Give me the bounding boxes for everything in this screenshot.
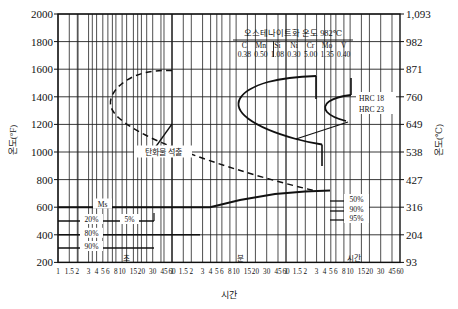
xtick-d2-8: 8 bbox=[228, 268, 232, 276]
left-tick-1600: 1600 bbox=[31, 63, 54, 75]
composition-header-ni: Ni bbox=[290, 41, 298, 50]
x-axis-ticklabels: 11.523456810152030456011.523456810152030… bbox=[56, 268, 404, 276]
xtick-d3-60: 60 bbox=[396, 268, 404, 276]
xtick-d2-6: 6 bbox=[220, 268, 224, 276]
xtick-d1-4: 4 bbox=[95, 268, 99, 276]
composition-value-mo: 1.35 bbox=[320, 50, 333, 59]
composition-header-c: C bbox=[242, 41, 247, 50]
composition-value-cr: 5.00 bbox=[304, 50, 317, 59]
xtick-d3-5: 5 bbox=[329, 268, 333, 276]
xtick-d1-20: 20 bbox=[138, 268, 146, 276]
xtick-d1-3: 3 bbox=[87, 268, 91, 276]
decade-label-minutes: 분 bbox=[237, 254, 244, 263]
composition-value-ni: 0.30 bbox=[287, 50, 300, 59]
composition-header-si: Si bbox=[274, 41, 280, 50]
right-tick-982: 982 bbox=[406, 36, 423, 48]
composition-header-row: CMnSiNiCrMoV bbox=[242, 41, 347, 50]
composition-value-c: 0.38 bbox=[238, 50, 251, 59]
austenitizing-temperature-label: 오스테나이트화 온도 982℃ bbox=[244, 28, 342, 38]
right-tick-1093: 1,093 bbox=[406, 8, 431, 20]
xtick-d2-1.5: 1.5 bbox=[179, 268, 188, 276]
xtick-d1-15: 15 bbox=[130, 268, 138, 276]
right-tick-427: 427 bbox=[406, 174, 423, 186]
hrc-23-label: HRC 23 bbox=[359, 105, 384, 114]
composition-value-mn: 0.50 bbox=[254, 50, 267, 59]
ms-label: Ms bbox=[98, 200, 108, 209]
right-axis-title: 온도(℃) bbox=[434, 124, 444, 156]
composition-header-mn: Mn bbox=[256, 41, 267, 50]
xtick-d3-30: 30 bbox=[377, 268, 385, 276]
xtick-d1-5: 5 bbox=[101, 268, 105, 276]
xtick-d2-20: 20 bbox=[252, 268, 260, 276]
composition-header-cr: Cr bbox=[307, 41, 315, 50]
left-tick-1400: 1400 bbox=[31, 91, 54, 103]
composition-value-row: 0.380.501.080.305.001.350.40 bbox=[238, 50, 351, 59]
xtick-d1-1: 1 bbox=[56, 268, 60, 276]
right-tick-760: 760 bbox=[406, 91, 423, 103]
decade-label-hours: 시간 bbox=[347, 253, 361, 263]
xtick-d3-2: 2 bbox=[304, 268, 308, 276]
xtick-d3-1: 1 bbox=[284, 268, 288, 276]
xtick-d2-5: 5 bbox=[215, 268, 219, 276]
left-tick-2000: 2000 bbox=[31, 8, 54, 20]
xtick-d1-8: 8 bbox=[114, 268, 118, 276]
xtick-d3-1.5: 1.5 bbox=[293, 268, 302, 276]
pct-20-label: 20% bbox=[85, 215, 100, 224]
xtick-d2-1: 1 bbox=[170, 268, 174, 276]
pct-90-right-label: 90% bbox=[350, 205, 365, 214]
xtick-d2-10: 10 bbox=[233, 268, 241, 276]
xtick-d1-45: 45 bbox=[160, 268, 168, 276]
xtick-d1-10: 10 bbox=[119, 268, 127, 276]
pct-90-left-label: 90% bbox=[85, 242, 100, 251]
xtick-d2-3: 3 bbox=[201, 268, 205, 276]
xtick-d2-30: 30 bbox=[263, 268, 271, 276]
xtick-d1-1.5: 1.5 bbox=[65, 268, 74, 276]
left-tick-1800: 1800 bbox=[31, 36, 54, 48]
xtick-d1-2: 2 bbox=[76, 268, 80, 276]
pct-95-right-label: 95% bbox=[350, 214, 365, 223]
xtick-d3-20: 20 bbox=[366, 268, 374, 276]
xtick-d2-15: 15 bbox=[244, 268, 252, 276]
left-tick-800: 800 bbox=[37, 174, 54, 186]
xtick-d3-45: 45 bbox=[388, 268, 396, 276]
xtick-d1-30: 30 bbox=[149, 268, 157, 276]
right-tick-93: 93 bbox=[406, 256, 418, 268]
composition-value-si: 1.08 bbox=[271, 50, 284, 59]
right-tick-316: 316 bbox=[406, 201, 423, 213]
right-tick-871: 871 bbox=[406, 63, 423, 75]
right-tick-649: 649 bbox=[406, 118, 423, 130]
xtick-d3-6: 6 bbox=[334, 268, 338, 276]
xtick-d2-4: 4 bbox=[209, 268, 213, 276]
composition-header-mo: Mo bbox=[322, 41, 333, 50]
left-tick-200: 200 bbox=[37, 256, 54, 268]
ttt-diagram-figure: 2000 1800 1600 1400 1200 1000 800 600 40… bbox=[0, 0, 458, 309]
left-tick-400: 400 bbox=[37, 229, 54, 241]
xtick-d3-10: 10 bbox=[347, 268, 355, 276]
composition-value-v: 0.40 bbox=[337, 50, 350, 59]
xtick-d3-8: 8 bbox=[342, 268, 346, 276]
ttt-diagram-svg: 2000 1800 1600 1400 1200 1000 800 600 40… bbox=[0, 0, 458, 309]
pct-5-label: 5% bbox=[124, 215, 135, 224]
xtick-d1-6: 6 bbox=[106, 268, 110, 276]
left-tick-600: 600 bbox=[37, 201, 54, 213]
xtick-d2-2: 2 bbox=[190, 268, 194, 276]
pct-50-right-label: 50% bbox=[350, 195, 365, 204]
carbide-precipitation-label: 탄화물 석출 bbox=[145, 147, 182, 157]
xtick-d3-3: 3 bbox=[315, 268, 319, 276]
xtick-d3-4: 4 bbox=[323, 268, 327, 276]
left-tick-1200: 1200 bbox=[31, 118, 54, 130]
composition-header-v: V bbox=[341, 41, 347, 50]
right-tick-204: 204 bbox=[406, 229, 423, 241]
bottom-axis-title: 시간 bbox=[221, 290, 237, 300]
left-tick-1000: 1000 bbox=[31, 146, 54, 158]
right-tick-538: 538 bbox=[406, 146, 423, 158]
xtick-d2-45: 45 bbox=[274, 268, 282, 276]
xtick-d3-15: 15 bbox=[358, 268, 366, 276]
hrc-18-label: HRC 18 bbox=[359, 94, 384, 103]
left-axis-title: 온도(°F) bbox=[8, 125, 18, 156]
pct-80-label: 80% bbox=[85, 229, 100, 238]
